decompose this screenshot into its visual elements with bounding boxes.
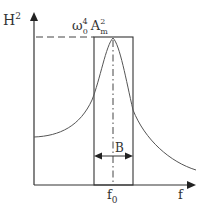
- x-axis-label: f: [178, 187, 184, 202]
- bandwidth-arrow-left-icon: [94, 153, 102, 160]
- bandwidth-label: B: [115, 141, 124, 155]
- peak-label: ω40A2m: [72, 17, 108, 36]
- center-frequency-label: f0: [107, 187, 118, 205]
- bandwidth-arrow-right-icon: [125, 153, 133, 160]
- y-axis-label: H2: [3, 11, 21, 28]
- y-axis-arrow-icon: [30, 12, 38, 21]
- resonance-bandwidth-diagram: H2 ω40A2m B f0 f: [0, 0, 208, 213]
- x-axis-arrow-icon: [187, 181, 196, 189]
